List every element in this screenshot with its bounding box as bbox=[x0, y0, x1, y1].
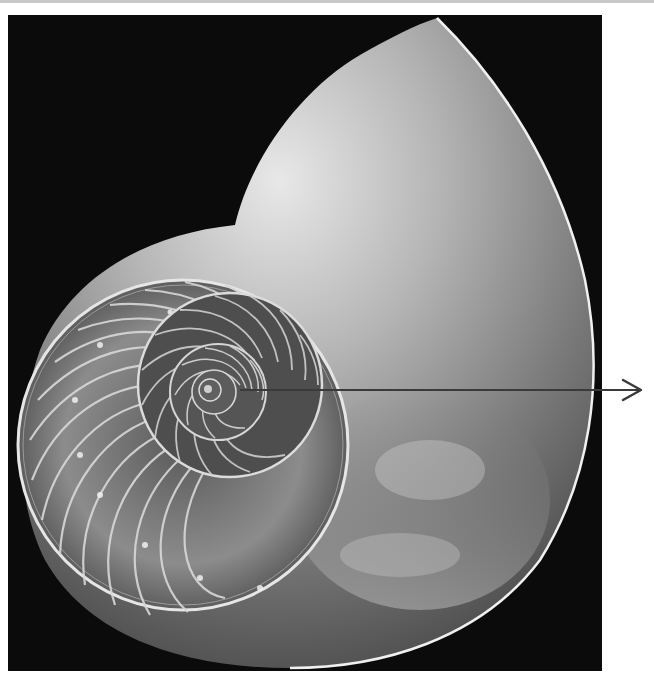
top-divider bbox=[0, 0, 654, 3]
nautilus-shell-illustration bbox=[8, 15, 602, 671]
nautilus-photo bbox=[8, 15, 602, 671]
